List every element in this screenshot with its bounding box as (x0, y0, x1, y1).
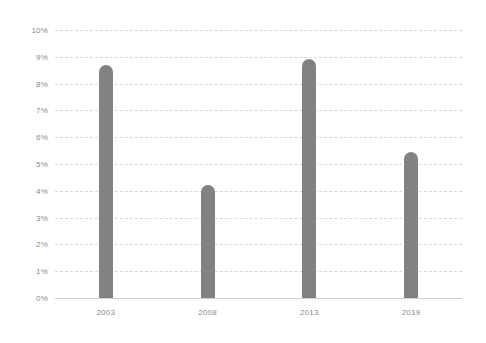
x-tick-label: 2003 (96, 308, 115, 317)
bar[interactable] (201, 185, 215, 298)
bar-slot (360, 30, 462, 298)
y-tick-label: 2% (4, 240, 48, 249)
y-tick-label: 9% (4, 52, 48, 61)
y-axis: 0%1%2%3%4%5%6%7%8%9%10% (0, 30, 48, 298)
bar[interactable] (99, 65, 113, 298)
y-tick-label: 4% (4, 186, 48, 195)
bars-layer (55, 30, 462, 298)
x-axis: 2003200820132019 (55, 308, 462, 324)
x-tick-label: 2019 (402, 308, 421, 317)
bar[interactable] (404, 152, 418, 298)
bar[interactable] (302, 59, 316, 298)
y-tick-label: 0% (4, 294, 48, 303)
axis-baseline (55, 298, 462, 299)
y-tick-label: 3% (4, 213, 48, 222)
x-tick-label: 2008 (198, 308, 217, 317)
y-tick-label: 10% (4, 26, 48, 35)
y-tick-label: 5% (4, 160, 48, 169)
bar-slot (55, 30, 157, 298)
bar-slot (259, 30, 361, 298)
bar-chart: 0%1%2%3%4%5%6%7%8%9%10% 2003200820132019 (0, 0, 486, 343)
y-tick-label: 7% (4, 106, 48, 115)
y-tick-label: 6% (4, 133, 48, 142)
y-tick-label: 1% (4, 267, 48, 276)
y-tick-label: 8% (4, 79, 48, 88)
bar-slot (157, 30, 259, 298)
x-tick-label: 2013 (300, 308, 319, 317)
